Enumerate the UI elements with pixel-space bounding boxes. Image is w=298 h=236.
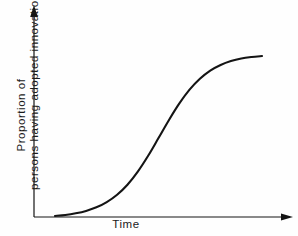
axes-group (30, 5, 293, 221)
x-axis-label: Time (0, 219, 298, 231)
adoption-curve-line (55, 56, 262, 216)
x-axis-label-text: Time (112, 219, 139, 231)
y-axis-label-group-secondary: persons having adopted innovation (21, 0, 47, 236)
y-axis-label-line-2: persons having adopted innovation (29, 40, 43, 190)
adoption-s-curve-figure: Proportion of persons having adopted inn… (0, 0, 298, 236)
